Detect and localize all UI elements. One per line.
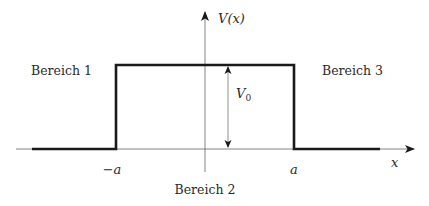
- x-axis-label: x: [391, 155, 399, 170]
- left-edge-label: −a: [103, 162, 122, 177]
- region-3-label: Bereich 3: [322, 63, 383, 78]
- region-1-label: Bereich 1: [31, 63, 92, 78]
- barrier-height-label: V0: [236, 86, 251, 103]
- region-2-label: Bereich 2: [175, 182, 236, 197]
- potential-barrier-diagram: V(x) x V0 −a a Bereich 1 Bereich 2 Berei…: [0, 0, 429, 206]
- right-edge-label: a: [290, 162, 298, 177]
- y-axis-label: V(x): [218, 11, 245, 26]
